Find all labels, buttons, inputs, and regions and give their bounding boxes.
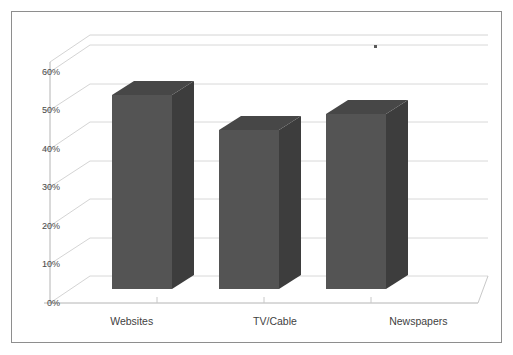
bar-newspapers-front bbox=[326, 114, 386, 289]
bar-tv-cable-side bbox=[279, 116, 301, 289]
xtick-label-tv-cable: TV/Cable bbox=[203, 309, 346, 333]
floor-group bbox=[157, 276, 488, 303]
bar-tv-cable[interactable] bbox=[219, 116, 301, 289]
xtick-label-websites: Websites bbox=[60, 309, 203, 333]
category-axis-labels: Websites TV/Cable Newspapers bbox=[60, 309, 490, 333]
bar-websites-side bbox=[172, 81, 194, 289]
ytick-label-10: 10% bbox=[26, 259, 60, 269]
ytick-label-50: 50% bbox=[26, 105, 60, 115]
bar-chart-3d: 60% 50% 40% 30% 20% 10% 0% Websites TV/C… bbox=[12, 12, 501, 342]
chart-canvas bbox=[12, 12, 503, 344]
chart-figure-frame: 60% 50% 40% 30% 20% 10% 0% Websites TV/C… bbox=[11, 11, 502, 343]
scan-artifact-dot bbox=[374, 45, 377, 48]
xtick-label-newspapers: Newspapers bbox=[347, 309, 490, 333]
ytick-label-20: 20% bbox=[26, 221, 60, 231]
screenshot-root: 60% 50% 40% 30% 20% 10% 0% Websites TV/C… bbox=[0, 0, 513, 355]
bar-newspapers-side bbox=[386, 100, 408, 289]
percentage-axis-labels: 60% 50% 40% 30% 20% 10% 0% bbox=[20, 12, 60, 344]
bar-websites[interactable] bbox=[112, 81, 194, 289]
ytick-label-0: 0% bbox=[26, 298, 60, 308]
bar-tv-cable-front bbox=[219, 130, 279, 289]
bar-newspapers[interactable] bbox=[326, 100, 408, 289]
ytick-label-30: 30% bbox=[26, 182, 60, 192]
ytick-label-40: 40% bbox=[26, 144, 60, 154]
bar-websites-front bbox=[112, 95, 172, 289]
ytick-label-60: 60% bbox=[26, 67, 60, 77]
floor-right-edge bbox=[478, 276, 488, 303]
